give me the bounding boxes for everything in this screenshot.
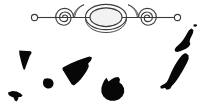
figure-canvas	[0, 0, 213, 110]
divider-terminal-circle-left	[31, 14, 37, 20]
canary-islands-figure: Canary Islands canary-islands-silhouette…	[0, 0, 213, 110]
divider-terminal-circle-right	[174, 14, 180, 20]
divider-center-ellipse-inner	[90, 8, 122, 27]
